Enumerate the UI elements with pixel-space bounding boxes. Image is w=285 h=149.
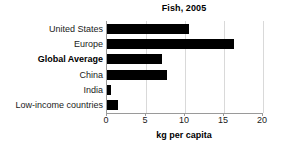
bar-row	[107, 100, 118, 110]
chart-title: Fish, 2005	[106, 3, 262, 14]
fish-consumption-bar-chart: Fish, 2005 United StatesEuropeGlobal Ave…	[0, 0, 285, 149]
bar	[107, 100, 118, 110]
y-axis-label: India	[0, 85, 103, 95]
x-tick-label: 5	[130, 115, 160, 126]
y-axis-label: United States	[0, 24, 103, 34]
gridline	[263, 21, 264, 113]
x-tick-label: 15	[208, 115, 238, 126]
y-axis-label: Europe	[0, 39, 103, 49]
bar-row	[107, 70, 167, 80]
bar	[107, 39, 234, 49]
bar	[107, 85, 111, 95]
x-axis-title: kg per capita	[106, 130, 262, 141]
x-tick-label: 10	[169, 115, 199, 126]
bar-row	[107, 85, 111, 95]
plot-area	[106, 21, 262, 113]
bar-series	[107, 21, 262, 113]
bar-row	[107, 24, 189, 34]
y-axis-label: China	[0, 70, 103, 80]
bar-row	[107, 54, 162, 64]
y-axis-label: Global Average	[0, 54, 103, 64]
bar	[107, 24, 189, 34]
y-axis-category-labels: United StatesEuropeGlobal AverageChinaIn…	[0, 21, 103, 113]
y-axis-label: Low-income countries	[0, 100, 103, 110]
x-tick-label: 0	[91, 115, 121, 126]
x-tick-label: 20	[247, 115, 277, 126]
bar	[107, 70, 167, 80]
bar-row	[107, 39, 234, 49]
bar	[107, 54, 162, 64]
